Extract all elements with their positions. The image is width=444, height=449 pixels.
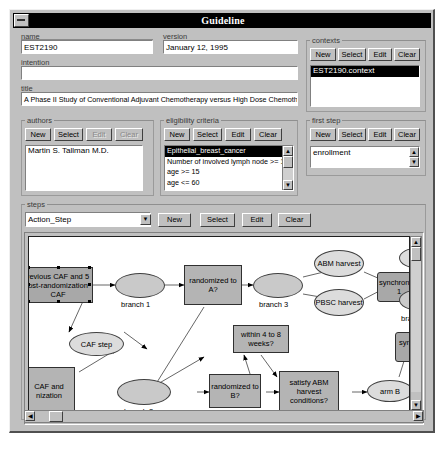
authors-listbox[interactable]: Martin S. Tallman M.D. <box>25 145 143 191</box>
node-randomized-to-a[interactable]: randomized to A? <box>184 265 242 305</box>
selection-handle[interactable] <box>88 266 91 269</box>
list-item[interactable]: Epithelial_breast_cancer <box>165 146 283 157</box>
eligibility-clear-button[interactable]: Clear <box>254 128 282 141</box>
version-input[interactable]: January 12, 1995 <box>163 40 298 54</box>
chevron-down-icon[interactable]: ▼ <box>140 214 151 225</box>
authors-edit-button: Edit <box>86 128 112 141</box>
scroll-down-icon[interactable]: ▼ <box>411 400 421 410</box>
first-step-clear-button[interactable]: Clear <box>394 128 420 141</box>
first-step-select-button[interactable]: Select <box>338 128 366 141</box>
first-step-input[interactable]: enrollment <box>310 146 420 168</box>
list-item[interactable]: Number of involved lymph node >= 10 <box>165 157 283 168</box>
authors-new-button[interactable]: New <box>25 128 51 141</box>
spinner-down-icon[interactable]: ▼ <box>409 157 419 167</box>
steps-clear-button[interactable]: Clear <box>278 213 311 227</box>
authors-clear-button: Clear <box>115 128 143 141</box>
canvas-hscrollbar[interactable]: ◀ ▶ <box>24 410 424 423</box>
selection-handle[interactable] <box>57 266 60 269</box>
eligibility-new-button[interactable]: New <box>164 128 190 141</box>
node-abm-harvest[interactable]: ABM harvest <box>314 250 364 277</box>
node-branch3-ellipse[interactable] <box>253 273 303 298</box>
intention-input[interactable] <box>21 66 298 80</box>
first-step-new-button[interactable]: New <box>310 128 336 141</box>
window-title: Guideline <box>29 15 417 26</box>
eligibility-scrollbar[interactable]: ▲ ▼ <box>282 146 293 190</box>
list-item[interactable]: EST2190.context <box>311 66 419 77</box>
selection-handle[interactable] <box>88 283 91 286</box>
guideline-window: Guideline name EST2190 version January 1… <box>9 9 435 433</box>
selection-handle[interactable] <box>88 300 91 303</box>
first-step-edit-button[interactable]: Edit <box>368 128 392 141</box>
node-branch-right-label: bran <box>401 314 410 323</box>
list-item[interactable]: age <= 60 <box>165 178 283 189</box>
title-input[interactable]: A Phase II Study of Conventional Adjuvan… <box>21 92 298 106</box>
node-branch1-ellipse[interactable] <box>115 273 165 298</box>
list-item[interactable]: ECOG performance status = 0 or 1 <box>165 188 283 191</box>
node-randomized-to-b[interactable]: randomized to B? <box>209 374 261 408</box>
eligibility-edit-button[interactable]: Edit <box>225 128 251 141</box>
title-bar: Guideline <box>13 13 431 28</box>
selection-handle[interactable] <box>57 300 60 303</box>
node-satisfy-abm-conditions[interactable]: satisfy ABM harvest conditions? <box>279 371 339 411</box>
first-step-label: first step <box>310 116 342 125</box>
spinner-up-icon[interactable]: ▲ <box>409 147 419 157</box>
steps-new-button[interactable]: New <box>158 213 191 227</box>
scroll-up-icon[interactable]: ▲ <box>411 237 421 247</box>
selection-handle[interactable] <box>28 300 30 303</box>
name-divider <box>21 39 153 40</box>
node-caf-and-randomization[interactable]: CAF and nization <box>28 367 75 411</box>
eligibility-select-button[interactable]: Select <box>193 128 222 141</box>
scrollbar-thumb[interactable] <box>283 156 293 168</box>
node-pbsc-harvest[interactable]: PBSC harvest <box>314 289 364 316</box>
contexts-select-button[interactable]: Select <box>338 48 366 61</box>
node-synchronize-2[interactable]: synchroniz 2 <box>395 332 410 362</box>
steps-select-button[interactable]: Select <box>200 213 235 227</box>
contexts-new-button[interactable]: New <box>310 48 336 61</box>
system-menu-icon[interactable] <box>14 14 29 27</box>
node-arm-b[interactable]: arm B <box>367 380 410 402</box>
scrollbar-track[interactable] <box>411 247 421 392</box>
canvas-vscrollbar[interactable]: ▲ ▼ <box>410 236 422 411</box>
steps-edit-button[interactable]: Edit <box>242 213 272 227</box>
selection-handle[interactable] <box>28 283 30 286</box>
scroll-left-icon[interactable]: ◀ <box>25 411 35 421</box>
node-caf-step[interactable]: CAF step <box>69 332 124 356</box>
authors-select-button[interactable]: Select <box>54 128 83 141</box>
workflow-canvas[interactable]: revious CAF and 5 ost-randomization CAF … <box>28 236 410 411</box>
workflow-canvas-frame: revious CAF and 5 ost-randomization CAF … <box>24 232 424 425</box>
steps-label: steps <box>25 200 47 209</box>
authors-label: authors <box>25 116 54 125</box>
scrollbar-thumb[interactable] <box>411 247 421 261</box>
scroll-down-icon[interactable]: ▼ <box>283 180 293 190</box>
node-branch2-ellipse[interactable] <box>117 379 171 405</box>
steps-combo[interactable]: Action_Step <box>25 212 151 227</box>
node-previous-caf[interactable]: revious CAF and 5 ost-randomization CAF <box>28 267 93 303</box>
name-input[interactable]: EST2190 <box>21 40 153 54</box>
eligibility-label: eligibility criteria <box>164 116 221 125</box>
scroll-up-icon[interactable]: ▲ <box>283 146 293 156</box>
selection-handle[interactable] <box>28 266 30 269</box>
contexts-label: contexts <box>310 36 342 45</box>
node-branch1-label: branch 1 <box>121 300 150 309</box>
node-within-4-to-8-weeks[interactable]: within 4 to 8 weeks? <box>233 325 289 353</box>
list-item[interactable]: age >= 15 <box>165 167 283 178</box>
eligibility-listbox[interactable]: Epithelial_breast_cancer Number of invol… <box>164 145 294 191</box>
list-item[interactable]: Martin S. Tallman M.D. <box>26 146 142 157</box>
node-branch3-label: branch 3 <box>259 300 288 309</box>
contexts-clear-button[interactable]: Clear <box>394 48 420 61</box>
contexts-listbox[interactable]: EST2190.context <box>310 65 420 107</box>
contexts-edit-button[interactable]: Edit <box>368 48 392 61</box>
scroll-right-icon[interactable]: ▶ <box>413 411 423 421</box>
scrollbar-thumb[interactable] <box>49 411 63 422</box>
